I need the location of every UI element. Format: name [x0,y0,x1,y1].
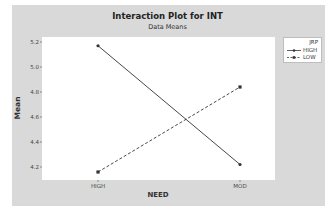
x-tick-label: HIGH [91,183,105,189]
plot-area: 4.24.44.64.85.05.2 HIGHMOD Mean NEED [0,0,335,217]
y-tick-label: 4.6 [30,114,39,120]
y-tick-label: 5.0 [30,64,39,70]
x-axis: HIGHMOD [91,180,247,189]
y-tick-label: 4.4 [30,139,39,145]
x-tick-label: MOD [233,183,246,189]
data-point-marker [238,163,241,166]
x-axis-label: NEED [147,191,168,199]
data-point-marker [96,170,99,173]
y-axis-label: Mean [13,97,22,120]
legend: JRP HIGH LOW [283,37,322,63]
legend-item-low: LOW [287,54,318,61]
legend-item-high: HIGH [287,47,318,54]
data-point-marker [238,85,241,88]
legend-title: JRP [309,39,318,45]
dashed-line-square-icon [287,54,303,61]
solid-line-circle-icon [287,47,303,54]
plot-background [42,37,275,180]
y-tick-label: 4.2 [30,164,39,170]
y-tick-label: 5.2 [30,39,39,45]
y-axis: 4.24.44.64.85.05.2 [30,39,42,170]
legend-label-low: LOW [303,54,316,60]
legend-label-high: HIGH [303,47,317,53]
data-point-marker [96,44,99,47]
y-tick-label: 4.8 [30,89,39,95]
